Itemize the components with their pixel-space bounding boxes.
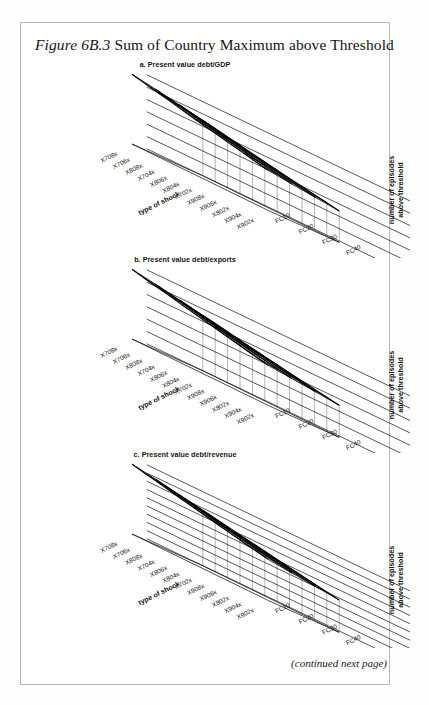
figure-title: Figure 6B.3 Sum of Country Maximum above… <box>35 36 400 54</box>
chart-b-title: b. Present value debt/exports <box>20 255 350 264</box>
fc-category-label: FC10 <box>274 211 292 224</box>
fc-category-label: FC10 <box>274 601 292 614</box>
chart-panel-c: c. Present value debt/revenue 05001,0001… <box>20 450 410 650</box>
chart-c-title: c. Present value debt/revenue <box>20 450 350 459</box>
chart-panel-b: b. Present value debt/exports 01,0002,00… <box>20 255 410 455</box>
fc-category-label: FC30 <box>321 427 339 440</box>
fc-category-label: FC10 <box>274 406 292 419</box>
y-axis-title-line2: above threshold <box>396 357 405 413</box>
fc-category-label: FC30 <box>321 622 339 635</box>
chart-a-plot: 02004006008001,0001,200number of episode… <box>20 70 410 258</box>
chart-b-plot: 01,0002,0003,0004,0005,0006,000number of… <box>20 265 410 453</box>
x-axis-title: type of shock <box>137 190 181 217</box>
y-axis-title-line2: above threshold <box>396 552 405 608</box>
y-axis-title-line1: number of episodes <box>387 156 396 224</box>
fc-category-label: FC20 <box>297 417 315 430</box>
y-axis-title-line1: number of episodes <box>387 546 396 614</box>
figure-number: Figure 6B.3 <box>35 36 110 53</box>
x-axis-title: type of shock <box>137 385 181 412</box>
y-axis-title-line1: number of episodes <box>387 351 396 419</box>
figure-title-text: Sum of Country Maximum above Threshold <box>110 36 393 53</box>
chart-panel-a: a. Present value debt/GDP 02004006008001… <box>20 60 410 260</box>
x-axis-title: type of shock <box>137 580 181 607</box>
chart-c-plot: 05001,0001,5002,0002,5003,0003,5004,0004… <box>20 460 410 648</box>
chart-a-title: a. Present value debt/GDP <box>20 60 350 69</box>
continued-note: (continued next page) <box>291 657 387 669</box>
fc-category-label: FC20 <box>297 612 315 625</box>
book-page: Figure 6B.3 Sum of Country Maximum above… <box>0 0 429 705</box>
fc-category-label: FC30 <box>321 232 339 245</box>
y-axis-title-line2: above threshold <box>396 162 405 218</box>
fc-category-label: FC20 <box>297 222 315 235</box>
